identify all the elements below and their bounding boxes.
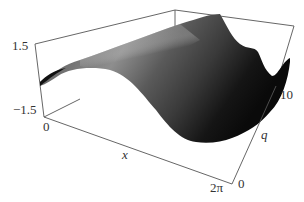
x-tick-zero: 0 <box>43 120 50 133</box>
z-tick-top: 1.5 <box>12 39 28 52</box>
z-tick-bottom: −1.5 <box>13 103 37 116</box>
surface-plot <box>0 0 304 202</box>
q-axis-label: q <box>261 128 268 141</box>
x-axis-label: x <box>122 148 128 161</box>
x-tick-end: 2π <box>210 181 223 194</box>
q-tick-zero: 0 <box>238 177 245 190</box>
q-tick-ten: 10 <box>280 88 293 101</box>
